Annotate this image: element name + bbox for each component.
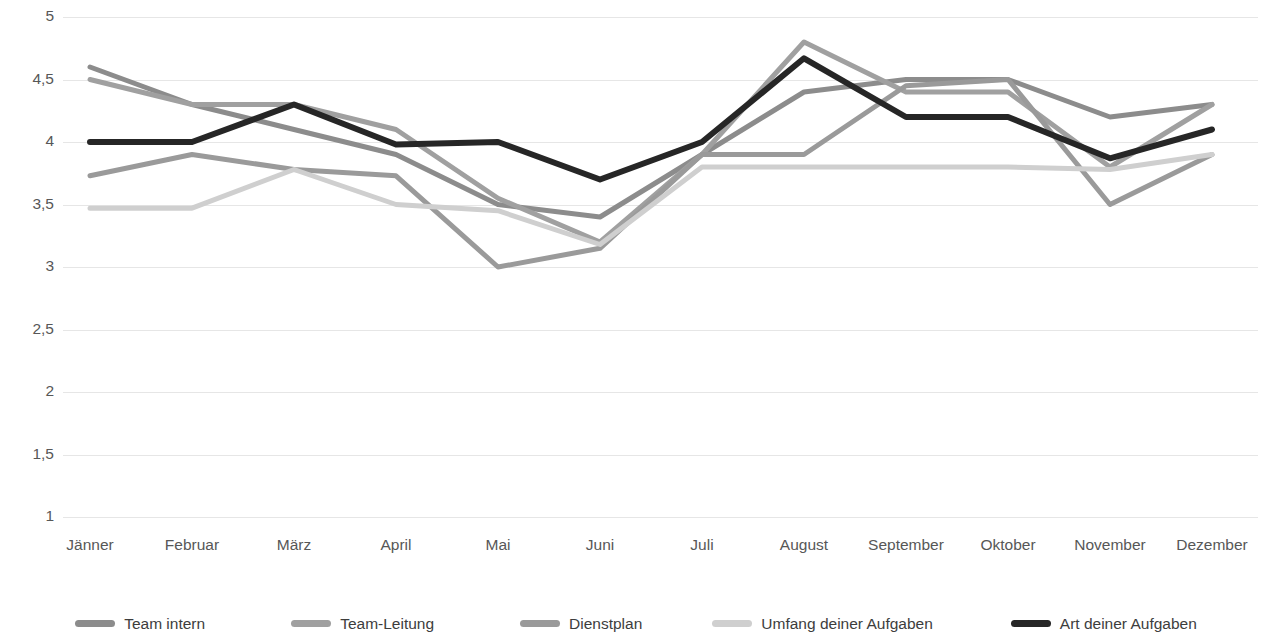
legend-item[interactable]: Dienstplan <box>520 615 642 633</box>
x-axis-tick-label: November <box>1074 536 1146 554</box>
legend-label: Umfang deiner Aufgaben <box>761 615 932 633</box>
x-axis-tick-label: Dezember <box>1176 536 1248 554</box>
legend-label: Team intern <box>124 615 205 633</box>
legend-label: Dienstplan <box>569 615 642 633</box>
x-axis-tick-label: Mai <box>486 536 511 554</box>
legend-label: Art deiner Aufgaben <box>1060 615 1197 633</box>
x-axis-tick-label: April <box>380 536 411 554</box>
legend-item[interactable]: Umfang deiner Aufgaben <box>712 615 932 633</box>
x-axis-tick-label: März <box>277 536 311 554</box>
x-axis-tick-label: September <box>868 536 944 554</box>
series-line <box>90 67 1212 217</box>
x-axis-tick-label: Jänner <box>66 536 113 554</box>
legend-label: Team-Leitung <box>340 615 434 633</box>
x-axis-tick-label: Oktober <box>980 536 1035 554</box>
legend-swatch-icon <box>1011 620 1051 627</box>
legend-swatch-icon <box>712 620 752 627</box>
legend-item[interactable]: Team intern <box>75 615 205 633</box>
legend-swatch-icon <box>75 620 115 627</box>
series-line <box>90 80 1212 268</box>
x-axis-tick-label: Februar <box>165 536 219 554</box>
x-axis-tick-label: Juli <box>690 536 713 554</box>
line-chart: 54,543,532,521,51 JännerFebruarMärzApril… <box>0 0 1272 639</box>
x-axis-tick-label: Juni <box>586 536 614 554</box>
legend-item[interactable]: Art deiner Aufgaben <box>1011 615 1197 633</box>
series-line <box>90 42 1212 242</box>
legend-swatch-icon <box>291 620 331 627</box>
legend-item[interactable]: Team-Leitung <box>291 615 434 633</box>
x-axis-tick-label: August <box>780 536 828 554</box>
legend-swatch-icon <box>520 620 560 627</box>
chart-legend: Team internTeam-LeitungDienstplanUmfang … <box>0 608 1272 639</box>
